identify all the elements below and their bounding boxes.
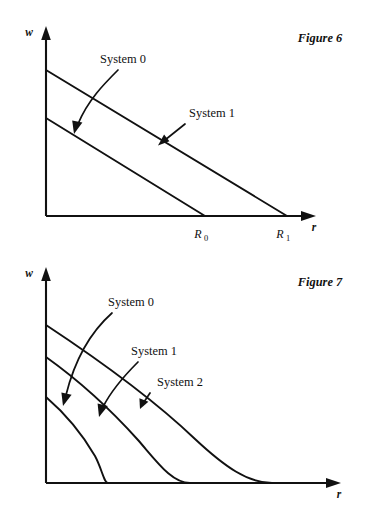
figure-6-curve-system-0 [46, 118, 205, 216]
figure-6-x-axis-arrowhead [301, 211, 316, 221]
figure-7-annotation-system-2: System 2 [139, 375, 202, 409]
figure-6-xtick-r0: R 0 [193, 227, 208, 243]
figure-7-leader-system-1-arrowhead [98, 404, 108, 417]
figure-6: Figure 6 w r R 0 R 1 System 0 [0, 0, 387, 261]
figure-7-label-system-1: System 1 [131, 344, 177, 358]
figure-7-leader-system-0-arrowhead [61, 393, 71, 406]
figure-7-label-system-2: System 2 [157, 375, 203, 389]
figure-6-y-axis-label: w [25, 26, 33, 38]
figure-6-xtick-r1-subscript: 1 [286, 234, 290, 243]
figure-6-y-axis-arrowhead [41, 26, 51, 40]
figure-6-annotation-system-1: System 1 [158, 106, 235, 146]
figure-7-caption: Figure 7 [297, 275, 343, 289]
figure-7-leader-system-2-arrowhead [139, 398, 148, 409]
figure-6-xtick-r0-base: R [193, 227, 202, 241]
figure-7-x-axis-arrowhead [326, 478, 341, 488]
figure-6-xtick-r1: R 1 [275, 227, 290, 243]
figure-6-xtick-r1-base: R [275, 227, 284, 241]
figure-7-label-system-0: System 0 [108, 295, 154, 309]
figure-6-caption: Figure 6 [297, 31, 343, 45]
figure-6-leader-system-1 [165, 124, 185, 140]
figure-6-xtick-r0-subscript: 0 [204, 234, 208, 243]
figure-7: Figure 7 w r System 0 System 1 System [0, 255, 387, 522]
figure-6-x-axis-label: r [312, 221, 317, 233]
figure-6-label-system-1: System 1 [189, 106, 235, 120]
figure-6-curve-system-1 [46, 70, 287, 216]
figure-6-leader-system-0-arrowhead [72, 121, 82, 134]
figure-6-svg: Figure 6 w r R 0 R 1 System 0 [0, 0, 387, 261]
figure-6-leader-system-0 [78, 70, 118, 124]
figure-7-y-axis-label: w [25, 267, 33, 279]
figure-6-label-system-0: System 0 [100, 52, 146, 66]
figure-7-y-axis-arrowhead [41, 267, 51, 281]
figure-7-x-axis-label: r [337, 488, 342, 500]
figure-7-svg: Figure 7 w r System 0 System 1 System [0, 255, 387, 522]
